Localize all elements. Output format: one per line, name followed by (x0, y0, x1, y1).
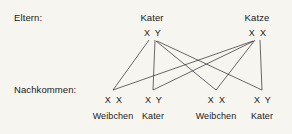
edge-line (216, 40, 255, 90)
offspring-name-3: Weibchen (196, 112, 237, 121)
offspring-genotype-1: X X (105, 96, 123, 105)
parent-genotype-father: X Y (144, 29, 162, 38)
offspring-genotype-4: X Y (254, 96, 272, 105)
edge-line (113, 41, 253, 90)
offspring-name-4: Kater (251, 112, 273, 121)
edge-line (157, 41, 262, 90)
parent-genotype-mother: X X (249, 29, 267, 38)
offspring-row-label: Nachkommen: (14, 85, 76, 95)
offspring-name-1: Weibchen (93, 112, 134, 121)
inheritance-diagram: Eltern: Nachkommen: Kater X Y Katze X X … (0, 0, 292, 134)
edge-line (153, 41, 254, 90)
parent-name-father: Kater (140, 13, 163, 23)
edge-line (153, 40, 155, 90)
edge-line (156, 41, 216, 90)
parents-row-label: Eltern: (14, 13, 42, 23)
offspring-genotype-3: X X (208, 96, 226, 105)
offspring-name-2: Kater (142, 112, 164, 121)
edge-line (113, 40, 149, 90)
parent-name-mother: Katze (245, 13, 270, 23)
offspring-genotype-2: X Y (145, 96, 163, 105)
edge-line (260, 40, 262, 90)
